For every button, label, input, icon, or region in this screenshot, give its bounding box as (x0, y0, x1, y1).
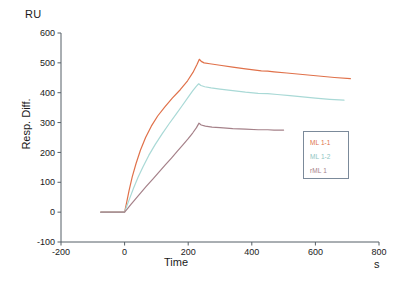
x-axis-tick-label: 400 (244, 247, 259, 257)
sensorgram-chart: RU Resp. Diff. Time s -10001002003004005… (0, 0, 396, 281)
legend-entry-2: rML 1 (310, 167, 327, 174)
x-axis-tick-label: 200 (181, 247, 196, 257)
y-axis-tick-label: 100 (40, 177, 55, 187)
x-axis-tick-label: 600 (308, 247, 323, 257)
y-axis-tick-label: 200 (40, 148, 55, 158)
series-line-2 (101, 123, 284, 212)
y-axis-tick-label: 400 (40, 88, 55, 98)
legend-entry-0: ML 1-1 (310, 139, 331, 146)
legend: ML 1-1 ML 1-2 rML 1 (303, 131, 349, 179)
x-axis-tick-label: 0 (122, 247, 127, 257)
y-axis-tick-label: -100 (37, 237, 55, 247)
x-axis-tick-label: 800 (371, 247, 386, 257)
y-axis-tick-label: 0 (50, 207, 55, 217)
legend-entry-1: ML 1-2 (310, 153, 331, 160)
y-axis-tick-label: 500 (40, 58, 55, 68)
x-axis-tick-label: -200 (52, 247, 70, 257)
y-axis-tick-label: 600 (40, 28, 55, 38)
y-axis-tick-label: 300 (40, 118, 55, 128)
